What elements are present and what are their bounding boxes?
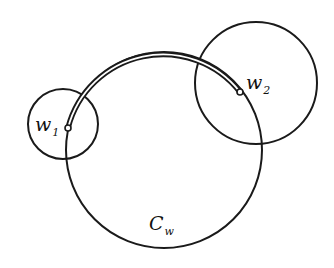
label-w1-main: w <box>35 113 51 135</box>
label-w2: w2 <box>246 73 270 92</box>
label-w2-sub: 2 <box>263 84 270 97</box>
label-w2-main: w <box>246 71 262 93</box>
label-w1: w1 <box>35 115 59 134</box>
label-cw-sub: w <box>165 225 174 238</box>
label-cw: Cw <box>149 214 174 233</box>
point-w1 <box>65 125 71 131</box>
label-cw-main: C <box>149 212 164 234</box>
point-w2 <box>237 89 243 95</box>
diagram: w1 w2 Cw <box>0 0 334 268</box>
label-w1-sub: 1 <box>52 126 59 139</box>
